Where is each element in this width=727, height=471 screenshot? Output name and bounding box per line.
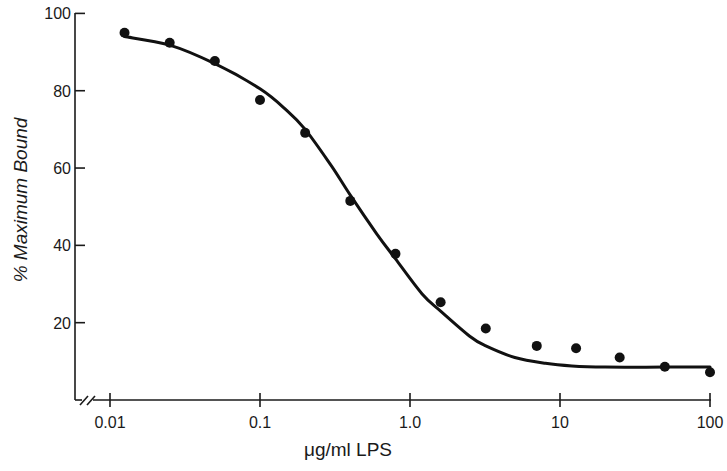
x-tick-label: 0.1 (249, 414, 271, 431)
data-point (571, 343, 581, 353)
x-tick-label: 0.01 (94, 414, 125, 431)
data-point (481, 323, 491, 333)
y-tick-label: 60 (53, 160, 71, 177)
data-point (660, 362, 670, 372)
data-points (120, 28, 715, 377)
chart-canvas: 20406080100 % Maximum Bound 0.010.11.010… (0, 0, 727, 471)
axis-break-icon (80, 396, 95, 405)
y-tick-label: 80 (53, 83, 71, 100)
y-tick-label: 40 (53, 237, 71, 254)
y-axis: 20406080100 % Maximum Bound (10, 5, 85, 400)
x-axis: 0.010.11.010100 μg/ml LPS (75, 393, 723, 460)
x-tick-label: 100 (697, 414, 724, 431)
data-point (120, 28, 130, 38)
data-point (390, 249, 400, 259)
data-point (165, 38, 175, 48)
data-point (255, 95, 265, 105)
data-point (532, 341, 542, 351)
data-point (300, 128, 310, 138)
y-axis-ticks: 20406080100 (44, 5, 85, 331)
x-tick-label: 1.0 (399, 414, 421, 431)
data-point (436, 297, 446, 307)
y-axis-title: % Maximum Bound (10, 116, 31, 282)
x-axis-ticks: 0.010.11.010100 (94, 393, 723, 431)
y-tick-label: 100 (44, 5, 71, 22)
x-axis-title: μg/ml LPS (304, 439, 392, 460)
fitted-curve (125, 37, 711, 368)
x-tick-label: 10 (551, 414, 569, 431)
data-point (615, 352, 625, 362)
y-tick-label: 20 (53, 315, 71, 332)
data-point (345, 196, 355, 206)
plot-area (120, 28, 715, 377)
data-point (210, 56, 220, 66)
data-point (705, 367, 715, 377)
